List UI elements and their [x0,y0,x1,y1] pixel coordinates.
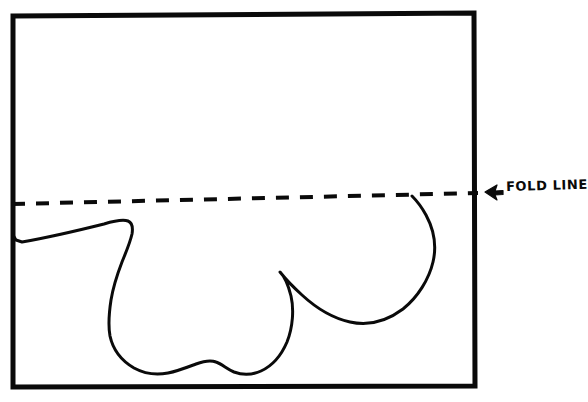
paper-border [13,13,475,387]
figure-svg [0,0,588,402]
left-arrow-icon [485,185,503,200]
half-heart-template-outline [13,196,435,374]
fold-line-label: FOLD LINE [506,177,588,194]
diagram-canvas: FOLD LINE [0,0,588,402]
fold-line-dashed [12,193,478,204]
